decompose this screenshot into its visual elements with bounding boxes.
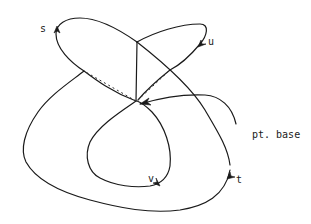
dashed-left xyxy=(84,71,136,101)
label-v: v xyxy=(148,174,154,184)
outer-left-arc xyxy=(23,71,230,211)
vertical-segment xyxy=(136,42,137,101)
loop-u xyxy=(137,24,206,100)
label-base-point: pt. base xyxy=(252,130,300,140)
label-t: t xyxy=(236,175,242,185)
loop-diagram xyxy=(0,0,311,224)
label-u: u xyxy=(208,37,214,47)
arrow-t-icon xyxy=(227,172,235,179)
loop-v xyxy=(87,101,170,187)
base-point-path xyxy=(140,95,236,124)
arrow-s-icon xyxy=(54,26,60,33)
loop-s xyxy=(56,18,137,101)
label-s: s xyxy=(40,24,46,34)
